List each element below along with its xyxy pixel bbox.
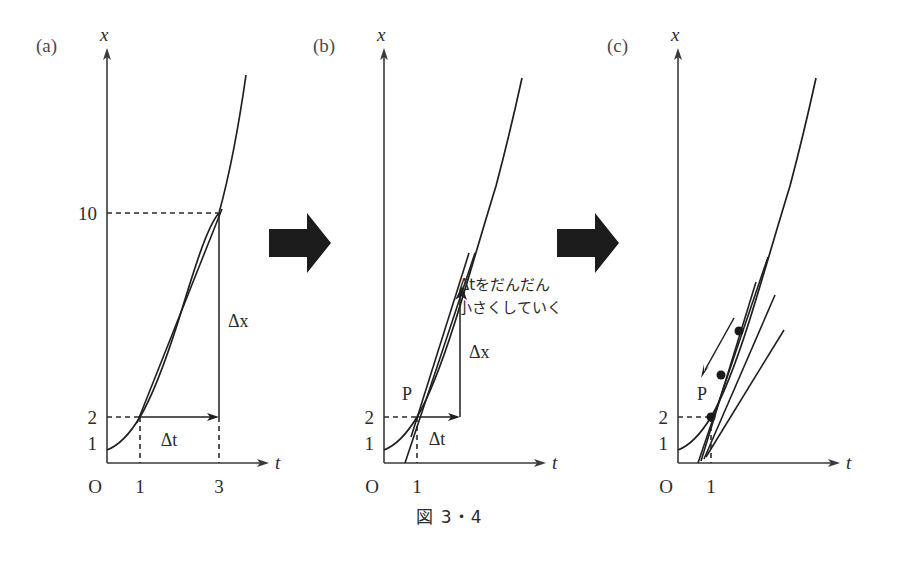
panel-b-y-axis-label: x	[376, 24, 386, 45]
panel-c-y-axis-label: x	[670, 24, 680, 45]
panel-a-tag: (a)	[36, 35, 57, 57]
panel-c-moving-point-1	[735, 327, 744, 336]
panel-c-motion-arrow	[705, 318, 734, 370]
panel-b-origin-label: O	[365, 476, 379, 497]
panel-a-origin-label: O	[88, 476, 102, 497]
panel-b-delta-t-label: Δt	[429, 429, 446, 449]
panel-b-x-axis-label: t	[552, 452, 558, 473]
panel-a-curve	[107, 75, 246, 450]
panel-a-delta-t-label: Δt	[161, 430, 178, 450]
panel-c: (c) x t O 2 1 1	[571, 0, 871, 520]
panel-b-xtick-1: 1	[412, 476, 422, 497]
panel-a: (a) x t O 10 2 1 1 3	[0, 0, 300, 520]
panel-b-tag: (b)	[313, 35, 335, 57]
panel-c-origin-label: O	[659, 476, 673, 497]
panel-a-plot: (a) x t O 10 2 1 1 3	[0, 0, 300, 520]
figure-caption: 図 3・4	[0, 503, 899, 528]
panel-b-note-line-2: 小さくしていく	[457, 299, 562, 317]
panel-a-xtick-1: 1	[135, 476, 145, 497]
panel-a-ytick-1: 1	[88, 433, 98, 454]
panel-b-ytick-2: 2	[365, 407, 375, 428]
panel-a-ytick-10: 10	[78, 203, 97, 224]
panel-c-tag: (c)	[607, 35, 628, 57]
panel-a-y-axis-label: x	[99, 24, 109, 45]
panel-b-note-line-1: Δtをだんだん	[459, 276, 550, 294]
panel-c-secant-4	[706, 330, 784, 457]
panel-c-moving-point-2	[717, 371, 726, 380]
figure-container: (a) x t O 10 2 1 1 3	[0, 0, 899, 561]
panel-a-ytick-2: 2	[88, 407, 98, 428]
panel-c-ytick-1: 1	[659, 433, 669, 454]
panel-b-ytick-1: 1	[365, 433, 375, 454]
panel-a-xtick-3: 3	[214, 476, 224, 497]
panel-a-secant-line	[137, 209, 222, 423]
panel-c-secant-1	[698, 257, 768, 463]
panel-b: (b) x t O 2 1 1	[277, 0, 577, 520]
panel-a-delta-x-label: Δx	[228, 311, 249, 331]
panel-c-secant-2	[701, 282, 756, 461]
panel-c-ytick-2: 2	[659, 407, 669, 428]
panel-c-point-p-dot	[707, 413, 716, 422]
panel-b-plot: (b) x t O 2 1 1	[277, 0, 577, 520]
panel-b-point-p-label: P	[402, 384, 412, 404]
panel-c-plot: (c) x t O 2 1 1	[571, 0, 871, 520]
panel-c-xtick-1: 1	[706, 476, 716, 497]
panel-c-x-axis-label: t	[846, 452, 852, 473]
panel-b-delta-x-label: Δx	[469, 342, 490, 362]
panel-c-point-p-label: P	[697, 384, 707, 404]
panel-c-secant-3	[704, 295, 775, 459]
